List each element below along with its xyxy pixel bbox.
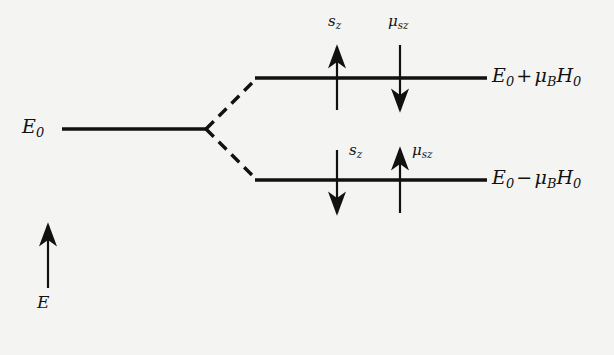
lower-energy-symbol: E — [492, 166, 506, 188]
label-moment-upper: μsz — [388, 14, 408, 31]
upper-energy-symbol: E — [492, 64, 506, 86]
moment-upper-subscript: sz — [398, 20, 409, 31]
initial-energy-symbol: E — [22, 115, 36, 137]
upper-field-subscript: 0 — [573, 74, 581, 89]
label-spin-upper: sz — [328, 14, 341, 31]
lower-field-symbol: H — [556, 166, 573, 188]
connector-lower-dashed — [206, 129, 257, 180]
lower-bohr-magneton-symbol: μ — [535, 166, 547, 188]
spin-lower-subscript: z — [357, 149, 362, 160]
zeeman-splitting-figure: E0 E0+μBH0 E0−μBH0 sz μsz sz μsz E — [0, 0, 614, 355]
moment-upper-symbol: μ — [388, 12, 398, 30]
connector-upper-dashed — [206, 78, 257, 129]
label-energy-axis: E — [37, 294, 49, 311]
upper-energy-subscript: 0 — [506, 74, 514, 89]
lower-bohr-magneton-subscript: B — [547, 176, 556, 191]
spin-lower-symbol: s — [349, 141, 357, 159]
spin-upper-subscript: z — [336, 20, 341, 31]
lower-field-subscript: 0 — [573, 176, 581, 191]
label-lower-energy: E0−μBH0 — [492, 168, 581, 191]
initial-energy-subscript: 0 — [36, 125, 44, 140]
upper-bohr-magneton-subscript: B — [547, 74, 556, 89]
moment-lower-symbol: μ — [412, 141, 422, 159]
upper-energy-operator: + — [514, 64, 534, 86]
upper-bohr-magneton-symbol: μ — [535, 64, 547, 86]
moment-lower-subscript: sz — [422, 149, 433, 160]
label-initial-energy: E0 — [22, 117, 44, 140]
spin-upper-symbol: s — [328, 12, 336, 30]
upper-field-symbol: H — [556, 64, 573, 86]
label-moment-lower: μsz — [412, 143, 432, 160]
label-upper-energy: E0+μBH0 — [492, 66, 581, 89]
lower-energy-subscript: 0 — [506, 176, 514, 191]
label-spin-lower: sz — [349, 143, 362, 160]
lower-energy-operator: − — [514, 166, 534, 188]
